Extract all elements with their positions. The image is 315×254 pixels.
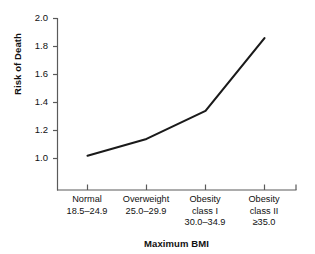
x-tick-label-overweight: Overweight 25.0–29.9	[113, 194, 179, 217]
y-tick-label-1.2: 1.2	[18, 125, 48, 135]
x-tick-marks	[88, 185, 297, 191]
y-tick-marks	[53, 19, 58, 159]
x-tick-label-normal-line1: Normal	[54, 194, 120, 206]
x-tick-label-obesity-class-ii-line3: ≥35.0	[231, 217, 297, 229]
x-tick-label-obesity-class-ii: Obesity class II ≥35.0	[231, 194, 297, 229]
x-axis-title: Maximum BMI	[57, 233, 296, 251]
x-tick-label-overweight-line1: Overweight	[113, 194, 179, 206]
x-tick-label-obesity-class-i: Obesity class I 30.0–34.9	[172, 194, 238, 229]
chart-figure: 2.0 1.8 1.6 1.4 1.2 1.0 Risk of Death No…	[0, 0, 315, 254]
y-axis-title-text: Risk of Death	[12, 33, 23, 95]
x-tick-label-normal: Normal 18.5–24.9	[54, 194, 120, 217]
x-tick-label-obesity-class-i-line1: Obesity	[172, 194, 238, 206]
x-tick-label-obesity-class-i-line2: class I	[172, 206, 238, 218]
y-tick-label-1.0: 1.0	[18, 153, 48, 163]
risk-of-death-line	[88, 38, 265, 156]
x-axis-title-text: Maximum BMI	[144, 238, 209, 249]
x-tick-label-obesity-class-ii-line1: Obesity	[231, 194, 297, 206]
x-tick-label-normal-line2: 18.5–24.9	[54, 206, 120, 218]
x-tick-label-obesity-class-ii-line2: class II	[231, 206, 297, 218]
y-axis-title: Risk of Death	[10, 14, 24, 114]
x-tick-label-overweight-line2: 25.0–29.9	[113, 206, 179, 218]
x-tick-label-obesity-class-i-line3: 30.0–34.9	[172, 217, 238, 229]
